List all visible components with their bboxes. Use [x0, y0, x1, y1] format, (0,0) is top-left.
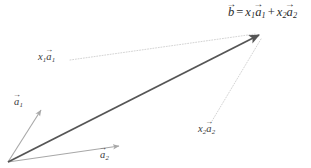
- equation-term2-vector: a: [287, 6, 293, 19]
- x2a2-vector-subscript: 2: [212, 128, 215, 135]
- basis-vector-label-a2: a2: [100, 150, 109, 162]
- leader-line-x2a2: [212, 39, 261, 121]
- x1a1-vector-subscript: 1: [52, 56, 55, 63]
- equation-term1-vector: a: [255, 6, 261, 19]
- equation-label: b=x1a1+x2a2: [228, 6, 297, 21]
- component-label-x2a2: x2a2: [198, 124, 215, 136]
- equation-term2-vector-subscript: 2: [293, 11, 297, 20]
- equation-term1-vector-subscript: 1: [262, 11, 266, 20]
- vector-diagram-figure: b=x1a1+x2a2 x1a1 x2a2 a1 a2: [0, 0, 311, 168]
- equation-plus-sign: +: [268, 5, 275, 19]
- x2a2-coefficient: x: [198, 123, 203, 134]
- leader-line-x1a1: [70, 34, 255, 60]
- a1-vector-subscript: 1: [19, 101, 22, 108]
- equation-lhs-b: b: [228, 6, 234, 19]
- a2-vector: a: [100, 150, 105, 161]
- vector-canvas: [0, 0, 311, 168]
- x2a2-vector: a: [206, 124, 211, 135]
- x1a1-coefficient: x: [38, 51, 43, 62]
- basis-vector-label-a1: a1: [14, 97, 23, 109]
- a2-vector-subscript: 2: [105, 154, 108, 161]
- component-label-x1a1: x1a1: [38, 52, 55, 64]
- x1a1-vector: a: [46, 52, 51, 63]
- a1-vector: a: [14, 97, 19, 108]
- equation-equals-sign: =: [236, 5, 243, 19]
